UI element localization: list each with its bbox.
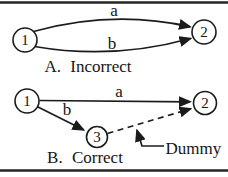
diagram-a-caption: A. Incorrect <box>44 57 131 76</box>
dummy-edge-dashed-line <box>108 109 191 134</box>
node-1-label: 1 <box>23 93 31 109</box>
node-2-label: 2 <box>201 95 209 111</box>
diagram-a: 1 2 a b A. Incorrect <box>13 1 216 76</box>
dummy-activity-figure: 1 2 a b A. Incorrect 1 2 3 a b Dummy B. … <box>0 0 228 177</box>
edge-a-label: a <box>115 82 123 101</box>
node-1-label: 1 <box>21 32 29 48</box>
dummy-callout-arrow <box>137 131 164 147</box>
edge-a-label: a <box>110 1 118 20</box>
edge-b-label: b <box>108 34 117 53</box>
node-2-label: 2 <box>200 24 208 40</box>
network-diagram-canvas: 1 2 a b A. Incorrect 1 2 3 a b Dummy B. … <box>0 0 228 177</box>
dummy-edge-label: Dummy <box>166 139 222 158</box>
diagram-b: 1 2 3 a b Dummy B. Correct <box>15 82 222 167</box>
edge-b-line <box>37 107 84 130</box>
diagram-b-caption: B. Correct <box>47 148 123 167</box>
node-3-label: 3 <box>93 129 101 145</box>
edge-b-label: b <box>63 100 72 119</box>
edge-a-arc <box>34 19 191 31</box>
